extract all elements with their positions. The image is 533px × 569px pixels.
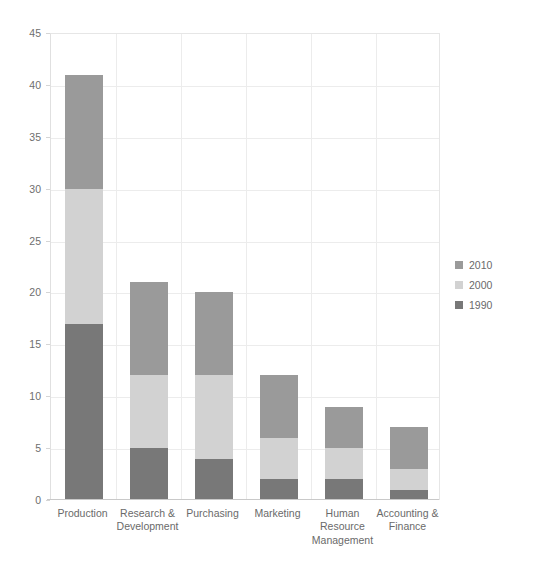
x-tick-label: Research & Development	[115, 507, 180, 534]
y-tick-label: 25	[11, 235, 41, 246]
bar-segment-1990[interactable]	[260, 479, 298, 500]
y-tick-label: 20	[11, 287, 41, 298]
bar-stack[interactable]	[325, 407, 363, 500]
bar-group	[376, 34, 441, 500]
y-tick-mark	[46, 500, 50, 501]
x-tick-label: Human Resource Management	[310, 507, 375, 547]
chart-title	[0, 0, 440, 4]
y-tick-label: 35	[11, 132, 41, 143]
bar-group	[181, 34, 246, 500]
bar-segment-2000[interactable]	[325, 448, 363, 479]
legend-swatch-icon	[455, 261, 463, 269]
bar-group	[116, 34, 181, 500]
legend-label: 1990	[469, 300, 492, 311]
chart-legend: 201020001990	[455, 256, 533, 316]
x-tick-label: Production	[50, 507, 115, 520]
x-axis-line	[47, 499, 439, 500]
bar-stack[interactable]	[195, 292, 233, 500]
bar-group	[246, 34, 311, 500]
bar-segment-2010[interactable]	[390, 427, 428, 469]
bar-segment-2010[interactable]	[195, 292, 233, 375]
legend-label: 2010	[469, 260, 492, 271]
legend-label: 2000	[469, 280, 492, 291]
x-tick-label: Marketing	[245, 507, 310, 520]
legend-swatch-icon	[455, 281, 463, 289]
x-tick-label: Purchasing	[180, 507, 245, 520]
bar-segment-2010[interactable]	[260, 375, 298, 437]
y-tick-label: 45	[11, 28, 41, 39]
bar-segment-2000[interactable]	[260, 438, 298, 480]
x-tick-label: Accounting & Finance	[375, 507, 440, 534]
bar-segment-2000[interactable]	[65, 189, 103, 324]
bar-segment-2000[interactable]	[390, 469, 428, 490]
legend-item[interactable]: 1990	[455, 296, 533, 314]
bar-segment-1990[interactable]	[65, 324, 103, 500]
bar-segment-2000[interactable]	[195, 375, 233, 458]
y-tick-label: 40	[11, 80, 41, 91]
legend-item[interactable]: 2000	[455, 276, 533, 294]
bar-stack[interactable]	[260, 375, 298, 500]
y-tick-label: 30	[11, 183, 41, 194]
bar-stack[interactable]	[390, 427, 428, 500]
stacked-bar-chart: 051015202530354045 ProductionResearch & …	[0, 0, 533, 569]
legend-item[interactable]: 2010	[455, 256, 533, 274]
legend-swatch-icon	[455, 301, 463, 309]
bar-segment-2010[interactable]	[325, 407, 363, 449]
bar-segment-2010[interactable]	[65, 75, 103, 189]
bar-stack[interactable]	[130, 282, 168, 500]
bar-segment-2000[interactable]	[130, 375, 168, 448]
y-tick-label: 15	[11, 339, 41, 350]
y-tick-label: 0	[11, 495, 41, 506]
bar-group	[311, 34, 376, 500]
bar-stack[interactable]	[65, 75, 103, 500]
bar-segment-2010[interactable]	[130, 282, 168, 375]
bar-segment-1990[interactable]	[130, 448, 168, 500]
bar-segment-1990[interactable]	[195, 459, 233, 501]
y-tick-label: 5	[11, 443, 41, 454]
bar-segment-1990[interactable]	[325, 479, 363, 500]
y-tick-label: 10	[11, 391, 41, 402]
plot-area	[50, 33, 440, 500]
bar-group	[51, 34, 116, 500]
